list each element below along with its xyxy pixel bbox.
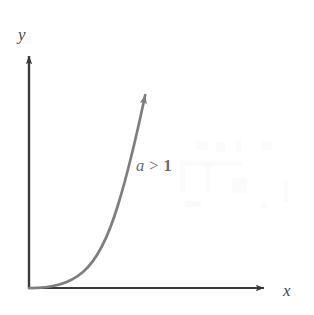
curve-annotation: a>1	[136, 156, 172, 175]
coordinate-plot: y x a>1	[0, 0, 314, 315]
annotation-value: 1	[164, 156, 172, 175]
axes-group	[29, 56, 264, 288]
exponential-curve	[29, 95, 145, 288]
annotation-operator: >	[149, 156, 158, 175]
figure-container: y x a>1	[0, 0, 314, 315]
x-axis-label: x	[282, 281, 291, 300]
annotation-variable: a	[136, 156, 144, 175]
curve-group	[29, 95, 145, 288]
y-axis-label: y	[16, 25, 26, 44]
